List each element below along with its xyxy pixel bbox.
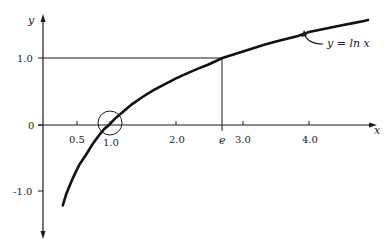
y-axis [41, 14, 46, 239]
x-tick-label-3.0: 3.0 [235, 134, 251, 145]
ln-curve [63, 20, 368, 206]
y-tick-label-minus-1.0: -1.0 [13, 186, 32, 197]
x-tick-label-2.0: 2.0 [169, 134, 185, 145]
y-ticks [38, 58, 43, 191]
y-axis-down-arrow-icon [41, 231, 46, 239]
x-tick-label-1.0: 1.0 [103, 137, 119, 148]
y-axis-up-arrow-icon [41, 14, 46, 22]
x-tick-label-0.5: 0.5 [69, 134, 85, 145]
curve-label-arrow-icon [304, 33, 323, 44]
curve-label: y = ln x [326, 37, 371, 50]
x-axis-label: x [374, 124, 381, 137]
x-tick-label-e: e [219, 134, 226, 147]
y-tick-label-0: 0 [28, 120, 34, 131]
y-axis-label: y [27, 14, 35, 27]
y-tick-label-1.0: 1.0 [17, 53, 33, 64]
x-axis [38, 123, 377, 128]
ln-graph: y x y = ln x 0.5 1.0 2.0 e 3.0 4.0 1.0 0… [0, 0, 392, 243]
x-tick-label-4.0: 4.0 [302, 134, 318, 145]
